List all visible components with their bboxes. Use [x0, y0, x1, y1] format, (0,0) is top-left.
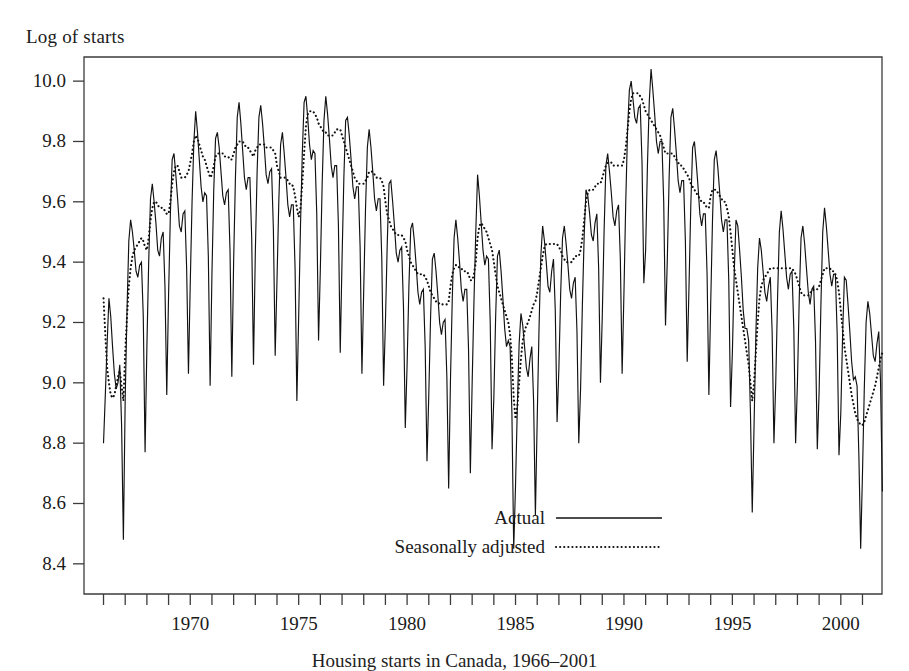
y-tick-label: 9.8	[42, 130, 66, 151]
y-axis-title: Log of starts	[26, 26, 125, 48]
plot-frame	[84, 57, 882, 594]
series-actual	[104, 69, 883, 549]
series-seasonally-adjusted	[104, 93, 883, 425]
legend-label-actual: Actual	[494, 507, 545, 528]
figure-caption: Housing starts in Canada, 1966–2001	[0, 650, 909, 671]
x-tick-label: 1980	[388, 613, 426, 634]
y-tick-label: 9.2	[42, 311, 66, 332]
x-tick-label: 1995	[713, 613, 751, 634]
chart-plot-area: 8.48.68.89.09.29.49.69.810.0 19701975198…	[0, 0, 909, 640]
legend-label-seasonally-adjusted: Seasonally adjusted	[395, 536, 546, 557]
x-tick-label: 1985	[497, 613, 535, 634]
y-tick-label: 10.0	[33, 70, 66, 91]
x-tick-label: 2000	[822, 613, 860, 634]
y-tick-label: 8.4	[42, 553, 66, 574]
figure-container: Log of starts 8.48.68.89.09.29.49.69.810…	[0, 0, 909, 671]
x-tick-label: 1970	[171, 613, 209, 634]
x-tick-label: 1990	[605, 613, 643, 634]
y-tick-label: 9.4	[42, 251, 66, 272]
y-tick-label: 8.8	[42, 432, 66, 453]
y-axis-ticks: 8.48.68.89.09.29.49.69.810.0	[33, 70, 84, 574]
x-axis-ticks: 1970197519801985199019952000	[104, 594, 863, 634]
chart-legend: Actual Seasonally adjusted	[395, 507, 662, 557]
y-tick-label: 9.6	[42, 191, 66, 212]
x-tick-label: 1975	[280, 613, 318, 634]
y-tick-label: 9.0	[42, 372, 66, 393]
y-tick-label: 8.6	[42, 492, 66, 513]
